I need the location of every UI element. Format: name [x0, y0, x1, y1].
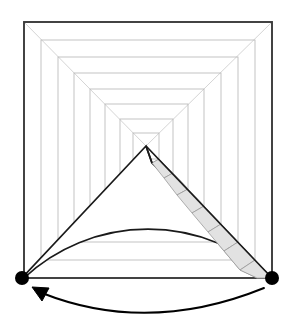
perspective-staircase-diagram: [0, 0, 292, 332]
pivot-dot-right: [265, 271, 279, 285]
figure-root: [0, 0, 292, 332]
pivot-dot-left: [15, 271, 29, 285]
